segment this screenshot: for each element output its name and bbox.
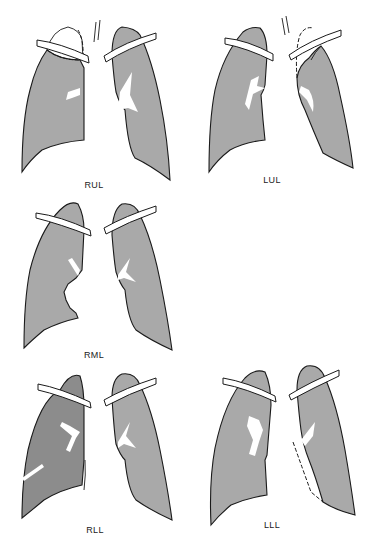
- panel-rml-diagram: [0, 180, 185, 360]
- panel-rll-diagram: [0, 360, 185, 540]
- panel-label-rll: RLL: [86, 525, 103, 535]
- panel-lll-diagram: [185, 360, 369, 540]
- panel-rul-diagram: [0, 0, 185, 180]
- panel-lul-diagram: [185, 0, 369, 180]
- left-lung: [297, 46, 353, 168]
- right-lung: [22, 50, 84, 172]
- panel-label-lll: LLL: [264, 520, 280, 530]
- panel-label-rml: RML: [84, 350, 104, 360]
- panel-label-lul: LUL: [263, 175, 280, 185]
